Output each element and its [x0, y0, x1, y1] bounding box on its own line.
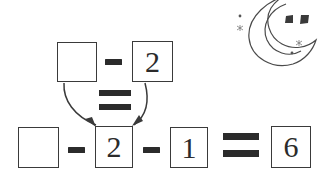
middle-equals-icon — [99, 90, 131, 112]
bottom-equation-minus-icon-1 — [68, 147, 85, 153]
bottom-equation-blank-box[interactable] — [18, 127, 59, 168]
moon-eye-right — [300, 15, 309, 24]
moon-sparkle-dot-1 — [239, 15, 242, 18]
equals-bar-bottom — [223, 150, 259, 157]
equals-bar-bottom — [99, 104, 131, 110]
bottom-equation-minus-icon-2 — [143, 147, 160, 153]
bottom-equation-two-box[interactable]: 2 — [95, 126, 133, 168]
moon-sparkle-star-2 — [296, 40, 302, 46]
equals-bar-top — [99, 90, 131, 96]
top-equation-minus-icon — [105, 59, 122, 65]
worksheet-canvas: 2 2 1 6 — [0, 0, 327, 174]
bottom-equation-equals-icon — [223, 133, 259, 159]
arrow-right-icon — [132, 83, 147, 126]
crescent-moon-icon — [231, 0, 327, 70]
bottom-equation-one-box[interactable]: 1 — [170, 127, 208, 168]
top-equation-two-box[interactable]: 2 — [132, 41, 173, 82]
moon-sparkle-star-1 — [237, 25, 243, 31]
moon-eye-left — [285, 15, 293, 23]
moon-sparkle-dot-2 — [291, 52, 294, 55]
arrow-left-icon — [64, 83, 96, 127]
equals-bar-top — [223, 133, 259, 140]
bottom-equation-six-box[interactable]: 6 — [271, 126, 311, 168]
top-equation-blank-box[interactable] — [57, 42, 97, 82]
